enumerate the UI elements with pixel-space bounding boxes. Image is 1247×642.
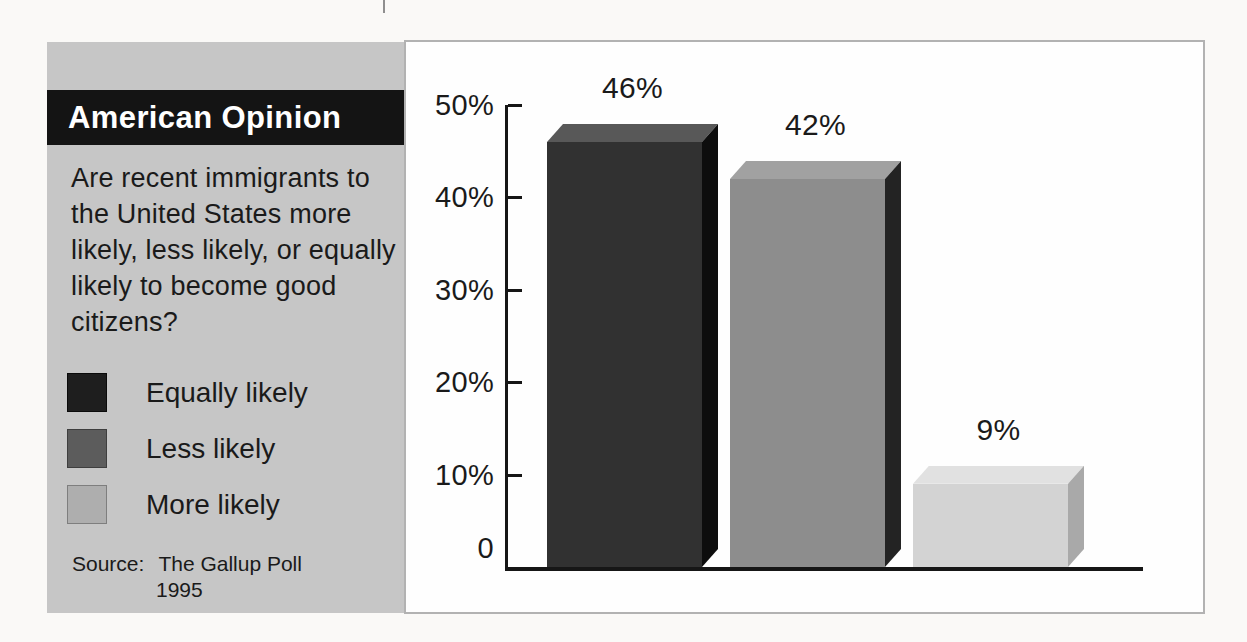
bar-front-face	[730, 179, 885, 567]
y-tick-label: 30%	[406, 275, 494, 305]
y-tick-label: 50%	[406, 90, 494, 120]
legend-item: More likely	[67, 485, 308, 524]
poll-question: Are recent immigrants to the United Stat…	[71, 160, 405, 340]
legend-label: Less likely	[146, 433, 275, 465]
y-tick	[508, 196, 522, 199]
bar-side-face	[885, 161, 901, 567]
y-axis-line	[505, 105, 508, 571]
panel-title: American Opinion	[68, 100, 341, 136]
info-panel: American Opinion Are recent immigrants t…	[47, 42, 404, 613]
y-tick-label: 0	[406, 533, 494, 563]
legend-swatch	[67, 429, 107, 468]
page-crop-mark	[383, 0, 385, 13]
bar-value-label: 42%	[730, 105, 901, 145]
legend-label: Equally likely	[146, 377, 308, 409]
title-bar: American Opinion	[47, 90, 410, 145]
x-axis-line	[505, 567, 1143, 571]
bar-top-face	[730, 161, 901, 179]
source-text: The Gallup Poll	[158, 552, 302, 575]
y-tick-label: 40%	[406, 182, 494, 212]
bar-front-face	[913, 484, 1068, 567]
legend: Equally likelyLess likelyMore likely	[67, 373, 308, 541]
source-note: Source:The Gallup Poll 1995	[72, 551, 302, 603]
bar-value-label: 46%	[547, 68, 718, 108]
source-line: Source:The Gallup Poll	[72, 551, 302, 577]
bar-front-face	[547, 142, 702, 567]
y-tick	[508, 289, 522, 292]
legend-swatch	[67, 485, 107, 524]
plot-area: 50%40%30%20%10%046%42%9%	[406, 42, 1203, 612]
bar-top-face	[913, 466, 1084, 484]
bar-top-face	[547, 124, 718, 142]
legend-label: More likely	[146, 489, 280, 521]
bar-value-label: 9%	[913, 410, 1084, 450]
y-tick-label: 20%	[406, 367, 494, 397]
source-prefix: Source:	[72, 552, 144, 575]
y-tick	[508, 381, 522, 384]
chart-panel: 50%40%30%20%10%046%42%9%	[404, 40, 1205, 614]
source-year: 1995	[156, 577, 302, 603]
bar-side-face	[702, 124, 718, 567]
y-tick	[508, 104, 522, 107]
legend-item: Less likely	[67, 429, 308, 468]
y-tick-label: 10%	[406, 460, 494, 490]
y-tick	[508, 474, 522, 477]
legend-item: Equally likely	[67, 373, 308, 412]
legend-swatch	[67, 373, 107, 412]
